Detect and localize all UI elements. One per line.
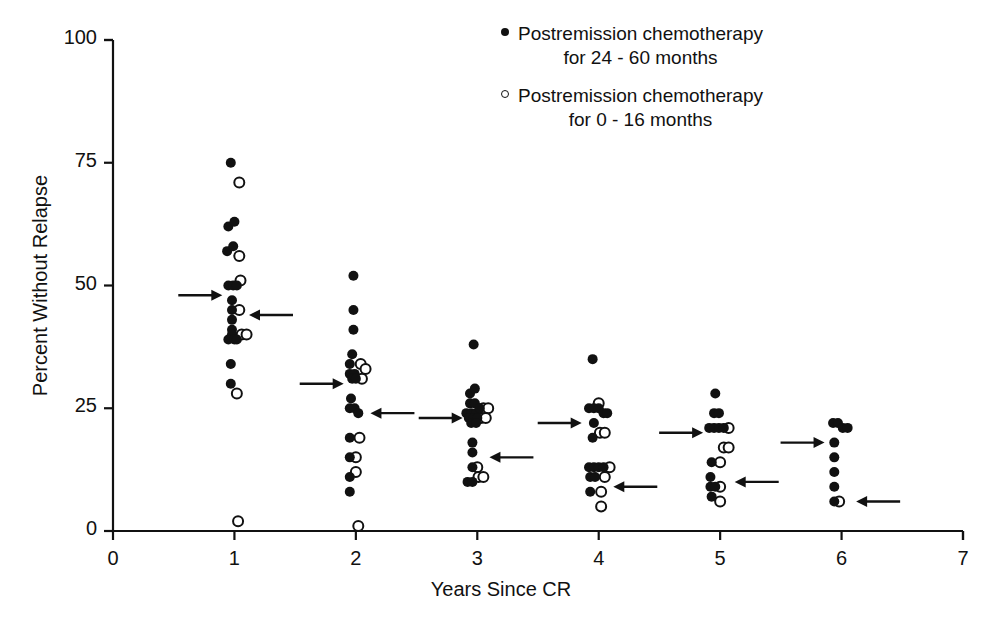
x-tick-label: 4 bbox=[569, 547, 629, 570]
data-point-filled bbox=[588, 354, 598, 364]
annotation-arrow-right bbox=[659, 427, 703, 438]
legend-item-long-chemo: Postremission chemotherapy for 24 - 60 m… bbox=[492, 22, 912, 70]
data-point-open bbox=[355, 433, 365, 443]
data-point-filled bbox=[227, 315, 237, 325]
legend-item-label: Postremission chemotherapy for 24 - 60 m… bbox=[518, 22, 763, 70]
data-point-filled bbox=[353, 408, 363, 418]
annotation-arrow-right bbox=[178, 290, 222, 301]
x-axis-title: Years Since CR bbox=[0, 578, 1002, 601]
data-point-open bbox=[596, 487, 606, 497]
data-point-filled bbox=[228, 241, 238, 251]
data-point-filled bbox=[348, 271, 358, 281]
x-tick-label: 3 bbox=[447, 547, 507, 570]
y-tick-label: 0 bbox=[0, 517, 97, 540]
filled-circle-icon bbox=[492, 22, 518, 36]
data-point-filled bbox=[467, 438, 477, 448]
x-tick-label: 7 bbox=[933, 547, 993, 570]
data-point-filled bbox=[714, 408, 724, 418]
data-point-filled bbox=[348, 305, 358, 315]
figure-canvas: 1007550250 01234567 Percent Without Rela… bbox=[0, 0, 1002, 618]
annotation-arrow-right bbox=[419, 413, 463, 424]
x-tick-label: 0 bbox=[83, 547, 143, 570]
data-point-filled bbox=[226, 158, 236, 168]
data-point-filled bbox=[471, 418, 481, 428]
series-open-points bbox=[232, 177, 844, 531]
data-point-filled bbox=[710, 482, 720, 492]
legend-item-label: Postremission chemotherapy for 0 - 16 mo… bbox=[518, 84, 763, 132]
data-point-filled bbox=[719, 423, 729, 433]
data-point-filled bbox=[475, 403, 485, 413]
data-point-filled bbox=[345, 359, 355, 369]
data-point-open bbox=[353, 521, 363, 531]
data-point-filled bbox=[346, 393, 356, 403]
data-point-filled bbox=[710, 389, 720, 399]
data-point-open bbox=[361, 364, 371, 374]
annotation-arrow-left bbox=[370, 408, 414, 419]
data-point-filled bbox=[467, 477, 477, 487]
data-point-filled bbox=[469, 339, 479, 349]
data-point-filled bbox=[599, 462, 609, 472]
annotation-arrow-left bbox=[613, 481, 657, 492]
data-point-filled bbox=[227, 295, 237, 305]
x-tick-label: 5 bbox=[690, 547, 750, 570]
annotation-arrow-left bbox=[735, 476, 779, 487]
data-point-open bbox=[596, 501, 606, 511]
data-point-open bbox=[234, 251, 244, 261]
data-point-filled bbox=[829, 467, 839, 477]
data-point-filled bbox=[345, 452, 355, 462]
data-point-filled bbox=[829, 497, 839, 507]
data-point-filled bbox=[590, 472, 600, 482]
legend-item-short-chemo: Postremission chemotherapy for 0 - 16 mo… bbox=[492, 84, 912, 132]
legend: Postremission chemotherapy for 24 - 60 m… bbox=[492, 22, 912, 146]
open-circle-icon bbox=[492, 84, 518, 98]
data-point-open bbox=[233, 516, 243, 526]
data-point-filled bbox=[227, 305, 237, 315]
data-point-filled bbox=[348, 325, 358, 335]
data-point-filled bbox=[226, 359, 236, 369]
data-point-open bbox=[600, 428, 610, 438]
data-point-filled bbox=[345, 487, 355, 497]
data-point-open bbox=[234, 177, 244, 187]
data-point-open bbox=[478, 472, 488, 482]
data-point-filled bbox=[829, 482, 839, 492]
data-point-filled bbox=[470, 384, 480, 394]
data-point-open bbox=[600, 472, 610, 482]
annotation-arrow-left bbox=[249, 309, 293, 320]
data-point-filled bbox=[705, 472, 715, 482]
data-point-filled bbox=[843, 423, 853, 433]
data-point-filled bbox=[467, 447, 477, 457]
data-point-filled bbox=[351, 374, 361, 384]
data-point-filled bbox=[232, 335, 242, 345]
data-point-filled bbox=[589, 418, 599, 428]
y-axis-title: Percent Without Relapse bbox=[29, 86, 52, 486]
data-point-filled bbox=[467, 462, 477, 472]
data-point-filled bbox=[602, 408, 612, 418]
data-point-filled bbox=[229, 217, 239, 227]
data-point-filled bbox=[347, 349, 357, 359]
data-point-open bbox=[715, 497, 725, 507]
data-point-filled bbox=[829, 452, 839, 462]
data-point-filled bbox=[585, 487, 595, 497]
data-point-open bbox=[724, 443, 734, 453]
data-point-filled bbox=[226, 379, 236, 389]
data-point-filled bbox=[232, 281, 242, 291]
x-tick-label: 6 bbox=[812, 547, 872, 570]
data-point-filled bbox=[345, 433, 355, 443]
data-point-open bbox=[242, 330, 252, 340]
data-point-filled bbox=[707, 457, 717, 467]
data-point-filled bbox=[829, 438, 839, 448]
y-tick-label: 100 bbox=[0, 26, 97, 49]
annotation-arrow-right bbox=[781, 437, 825, 448]
annotation-arrow-left bbox=[489, 452, 533, 463]
annotation-arrows bbox=[178, 290, 900, 507]
data-point-filled bbox=[707, 492, 717, 502]
x-tick-label: 2 bbox=[326, 547, 386, 570]
series-filled-points bbox=[222, 158, 853, 507]
data-point-open bbox=[232, 389, 242, 399]
annotation-arrow-right bbox=[538, 417, 582, 428]
x-tick-label: 1 bbox=[204, 547, 264, 570]
data-point-filled bbox=[345, 472, 355, 482]
data-point-filled bbox=[588, 433, 598, 443]
annotation-arrow-left bbox=[856, 496, 900, 507]
annotation-arrow-right bbox=[300, 378, 344, 389]
